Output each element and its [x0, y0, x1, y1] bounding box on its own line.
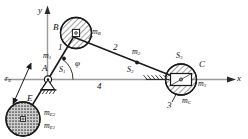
link-number-3: 3: [167, 101, 172, 110]
com-label-S1: S1: [59, 66, 65, 74]
com-marker-S2: [135, 61, 139, 65]
com-label-S2: S2: [127, 66, 133, 74]
mass-label-mC: mC: [182, 97, 191, 105]
y-axis-label: y: [38, 6, 42, 15]
mechanism-drawing: [0, 0, 248, 139]
link-number-4: 4: [97, 82, 102, 91]
eccentric-wheel-E: [6, 102, 40, 136]
leader-line-link3: [172, 94, 177, 103]
disc-B: [61, 18, 92, 49]
link-number-1: 1: [58, 43, 63, 52]
link-number-2: 2: [113, 43, 118, 52]
joint-label-C: C: [199, 60, 205, 69]
angle-label-phi: φ: [75, 59, 80, 68]
mass-label-m1: m1: [43, 52, 51, 60]
slider-C: [166, 64, 197, 95]
joint-label-B: B: [53, 23, 59, 32]
mass-label-mE2: mE2: [44, 109, 55, 117]
mass-label-mE1: mE1: [44, 122, 55, 130]
mass-label-m2: m2: [132, 48, 140, 56]
dimension-label-rE: rE: [5, 75, 11, 83]
mechanism-figure: y x B mB 1 m1 A S1 φ 2 m2 S2 4 S3 C m3 3: [0, 0, 248, 139]
com-marker-S1: [62, 57, 66, 61]
mass-label-m3: m3: [198, 80, 206, 88]
com-label-S3: S3: [176, 52, 182, 60]
mass-label-mB: mB: [92, 28, 101, 36]
joint-label-E: E: [27, 94, 33, 103]
x-axis-label: x: [237, 74, 241, 83]
joint-label-A: A: [42, 64, 48, 73]
